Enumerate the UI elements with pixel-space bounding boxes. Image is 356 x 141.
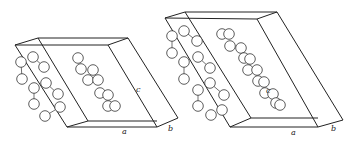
atom-circle [219, 90, 230, 101]
atom-circle [88, 65, 99, 76]
atom-circle [217, 105, 228, 116]
atom-circle [167, 48, 178, 59]
atom-circle [179, 57, 190, 68]
atom-circle [40, 111, 51, 122]
cell-edge [67, 121, 88, 127]
unit-cell-right: abc [165, 12, 343, 137]
cell-edge [277, 12, 343, 120]
atom-circle [28, 52, 39, 63]
cell-edge [257, 19, 318, 127]
cell-edge [15, 38, 38, 45]
axis-label-a: a [291, 128, 296, 137]
atom-circle [167, 31, 178, 42]
atom-circle [193, 52, 204, 63]
atom-circle [73, 53, 84, 64]
atom-circle [103, 90, 114, 101]
axis-label-b: b [168, 124, 173, 133]
atom-circle [245, 54, 256, 65]
atom-circle [179, 26, 190, 37]
atom-circle [76, 64, 87, 75]
atom-circle [225, 41, 236, 52]
axis-label-a: a [122, 127, 127, 136]
atom-circle [252, 65, 263, 76]
atom-circle [193, 85, 204, 96]
atom-circle [53, 89, 64, 100]
cell-edge [108, 38, 128, 45]
atom-circle [206, 110, 217, 121]
atom-circle [83, 75, 94, 86]
atom-circle [55, 102, 66, 113]
atom-circle [205, 78, 216, 89]
atom-circle [93, 75, 104, 86]
atom-circle [41, 78, 52, 89]
axis-label-b: b [331, 124, 336, 133]
atom-circle [39, 62, 50, 73]
atom-circle [179, 74, 190, 85]
atom-circle [17, 74, 28, 85]
atom-circle [110, 101, 121, 112]
axis-label-c: c [136, 85, 141, 94]
crystal-diagram: abc abc [0, 0, 356, 141]
atom-circle [29, 83, 40, 94]
atom-circle [275, 100, 286, 111]
atom-circle [193, 101, 204, 112]
cell-edge [165, 18, 257, 19]
axis-label-c: c [266, 86, 271, 95]
atom-circle [205, 63, 216, 74]
cell-edge [165, 12, 185, 18]
cell-edge [230, 118, 251, 127]
atom-circle [236, 43, 247, 54]
atom-circle [224, 29, 235, 40]
unit-cell-left: abc [15, 38, 178, 136]
cell-edge [257, 12, 277, 19]
cell-edge [108, 45, 157, 127]
atom-circle [29, 99, 40, 110]
atom-circle [192, 36, 203, 47]
atom-circle [16, 57, 27, 68]
